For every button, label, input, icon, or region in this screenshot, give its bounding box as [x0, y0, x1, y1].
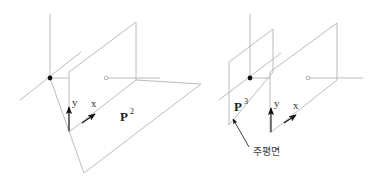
principal-plane-callout: 주평면 [253, 146, 280, 157]
ground-plane [50, 78, 201, 173]
principal-point-marker [306, 76, 310, 80]
x-axis-arrow [284, 115, 296, 123]
plane-label-p3-superscript: 3 [244, 97, 248, 106]
left-diagram: y x P 2 [20, 14, 201, 173]
camera-projection-diagram: y x P 2 y x [0, 0, 378, 180]
x-axis-arrow [82, 114, 95, 123]
callout-pointer-arrow [233, 119, 249, 147]
right-diagram: y x P 3 주평면 [219, 14, 363, 157]
principal-point-marker [104, 76, 108, 80]
x-axis-label: x [293, 99, 299, 111]
plane-label-p2-superscript: 2 [130, 107, 134, 116]
plane-label-p2: P [120, 109, 128, 124]
camera-center-dot [248, 76, 253, 81]
y-axis-label: y [72, 96, 78, 108]
camera-center-dot [48, 76, 53, 81]
x-axis-label: x [91, 97, 97, 109]
plane-label-p3: P [234, 99, 242, 114]
y-axis-label: y [274, 97, 280, 109]
